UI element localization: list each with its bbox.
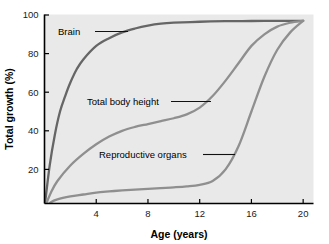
series-label-brain: Brain: [58, 26, 80, 37]
y-tick-label-40: 40: [28, 125, 39, 136]
x-axis-title: Age (years): [150, 228, 207, 240]
x-tick-label-4: 4: [94, 208, 99, 219]
y-tick-label-20: 20: [28, 164, 39, 175]
x-tick-label-8: 8: [145, 208, 150, 219]
x-tick-label-16: 16: [246, 208, 257, 219]
series-label-reproductive-organs: Reproductive organs: [99, 149, 187, 160]
x-tick-label-12: 12: [194, 208, 205, 219]
y-tick-label-100: 100: [23, 9, 39, 20]
series-label-total-body-height: Total body height: [87, 96, 159, 107]
chart-canvas: 4812162020406080100 BrainTotal body heig…: [0, 0, 329, 244]
plot-area-background: [45, 15, 314, 204]
x-tick-label-20: 20: [298, 208, 309, 219]
y-tick-label-80: 80: [28, 48, 39, 59]
growth-curves-figure: 4812162020406080100 BrainTotal body heig…: [0, 0, 329, 244]
y-tick-label-60: 60: [28, 87, 39, 98]
y-axis-title: Total growth (%): [3, 68, 15, 149]
